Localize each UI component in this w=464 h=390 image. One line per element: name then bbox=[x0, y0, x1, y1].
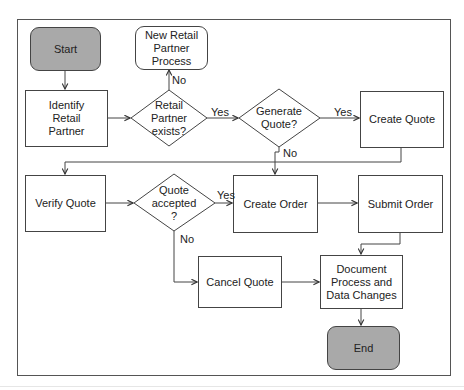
create-quote-node[interactable]: Create Quote bbox=[360, 91, 444, 148]
generate-quote-decision[interactable]: Generate Quote? bbox=[247, 98, 311, 138]
verify-quote-node[interactable]: Verify Quote bbox=[25, 175, 106, 232]
edge-label-accepted-yes: Yes bbox=[217, 189, 235, 201]
quote-accepted-decision[interactable]: Quote accepted ? bbox=[144, 181, 204, 225]
edge-label-accepted-no: No bbox=[180, 233, 194, 245]
submit-order-node[interactable]: Submit Order bbox=[358, 175, 443, 233]
identify-retail-partner-node[interactable]: Identify Retail Partner bbox=[25, 90, 108, 147]
end-node[interactable]: End bbox=[327, 326, 400, 370]
new-retail-partner-process-node[interactable]: New Retail Partner Process bbox=[135, 26, 208, 70]
edge-label-generate-no: No bbox=[283, 147, 297, 159]
cancel-quote-node[interactable]: Cancel Quote bbox=[198, 256, 282, 308]
retail-partner-exists-decision[interactable]: Retail Partner exists? bbox=[139, 96, 199, 140]
create-order-node[interactable]: Create Order bbox=[233, 175, 318, 233]
edge-label-generate-yes: Yes bbox=[334, 106, 352, 118]
start-node[interactable]: Start bbox=[30, 27, 101, 71]
document-process-node[interactable]: Document Process and Data Changes bbox=[320, 255, 403, 309]
divider bbox=[0, 386, 464, 387]
edge-label-partner-no: No bbox=[172, 74, 186, 86]
edge-label-partner-yes: Yes bbox=[211, 106, 229, 118]
